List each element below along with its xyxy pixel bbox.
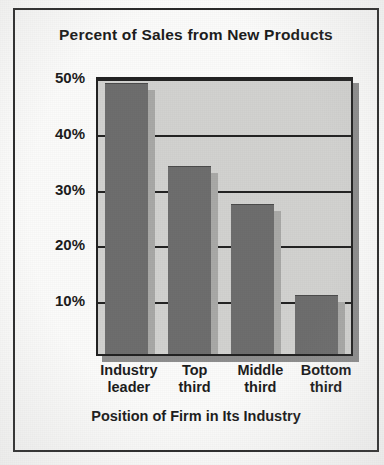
x-category-bottom-third: Bottom third (293, 362, 359, 396)
x-category-line2: third (162, 379, 228, 396)
x-category-line2: third (228, 379, 294, 396)
x-category-industry-leader: Industry leader (96, 362, 162, 396)
bar-top-third[interactable] (168, 166, 211, 354)
x-axis-category-labels: Industry leader Top third Middle third B… (96, 362, 359, 396)
x-category-line2: leader (96, 379, 162, 396)
y-axis-tick-labels: 50% 40% 30% 20% 10% (13, 77, 93, 356)
y-tick-label-10: 10% (55, 292, 85, 309)
plot-area (96, 77, 353, 356)
bar-middle-third[interactable] (231, 204, 274, 354)
x-category-line1: Bottom (301, 362, 352, 378)
bar-slot-industry-leader (98, 79, 161, 354)
x-axis-title: Position of Firm in Its Industry (13, 408, 379, 424)
bar-slot-bottom-third (288, 79, 351, 354)
bar-bottom-third[interactable] (295, 295, 338, 354)
x-category-line1: Middle (237, 362, 283, 378)
x-category-line1: Top (182, 362, 208, 378)
bar-industry-leader[interactable] (105, 83, 148, 354)
chart-title: Percent of Sales from New Products (13, 26, 379, 44)
y-tick-label-30: 30% (55, 180, 85, 197)
y-tick-label-40: 40% (55, 124, 85, 141)
x-category-line1: Industry (100, 362, 157, 378)
plot-area-wrapper (96, 77, 353, 356)
y-tick-label-20: 20% (55, 236, 85, 253)
y-tick-label-50: 50% (55, 69, 85, 86)
bar-series (98, 79, 351, 354)
x-category-line2: third (293, 379, 359, 396)
bar-slot-middle-third (225, 79, 288, 354)
x-category-middle-third: Middle third (228, 362, 294, 396)
x-category-top-third: Top third (162, 362, 228, 396)
bar-slot-top-third (161, 79, 224, 354)
